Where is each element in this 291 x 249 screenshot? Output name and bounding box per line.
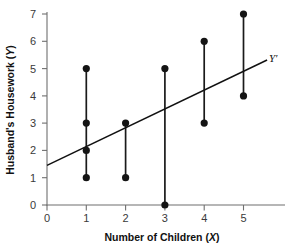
y-tick-label-1: 1 <box>30 172 36 184</box>
y-axis-title-tail: ) <box>4 45 16 49</box>
data-point <box>83 174 90 181</box>
scatter-chart: 0 1 2 3 4 5 6 7 0 1 2 3 4 5 <box>0 0 291 249</box>
data-point <box>83 147 90 154</box>
data-point <box>161 201 168 208</box>
x-axis-ticks: 0 1 2 3 4 5 <box>44 205 247 224</box>
data-point <box>240 10 247 17</box>
x-axis-title: Number of Children (X) <box>105 231 220 243</box>
x-axis-title-tail: ) <box>216 231 220 243</box>
x-axis-title-main: Number of Children ( <box>105 231 210 243</box>
y-tick-label-6: 6 <box>30 35 36 47</box>
y-tick-label-2: 2 <box>30 144 36 156</box>
data-point <box>201 120 208 127</box>
x-tick-label-2: 2 <box>123 212 129 224</box>
x-tick-label-4: 4 <box>201 212 207 224</box>
x-tick-label-1: 1 <box>83 212 89 224</box>
x-tick-label-5: 5 <box>240 212 246 224</box>
data-point <box>201 38 208 45</box>
y-tick-label-0: 0 <box>30 199 36 211</box>
y-tick-label-7: 7 <box>30 8 36 20</box>
data-point <box>83 120 90 127</box>
x-tick-label-0: 0 <box>44 212 50 224</box>
data-point <box>161 65 168 72</box>
data-point <box>240 92 247 99</box>
data-point <box>122 174 129 181</box>
y-tick-label-5: 5 <box>30 63 36 75</box>
regression-line <box>47 60 267 165</box>
y-tick-label-3: 3 <box>30 117 36 129</box>
x-tick-label-3: 3 <box>162 212 168 224</box>
data-point <box>122 120 129 127</box>
regression-line-label: Y′ <box>269 52 278 64</box>
y-axis-title-main: Husband's Housework ( <box>4 55 16 175</box>
y-axis-ticks: 0 1 2 3 4 5 6 7 <box>30 8 47 211</box>
y-tick-label-4: 4 <box>30 90 36 102</box>
data-point <box>83 65 90 72</box>
y-axis-title: Husband's Housework (Y) <box>4 45 16 175</box>
chart-canvas: 0 1 2 3 4 5 6 7 0 1 2 3 4 5 <box>0 0 291 249</box>
